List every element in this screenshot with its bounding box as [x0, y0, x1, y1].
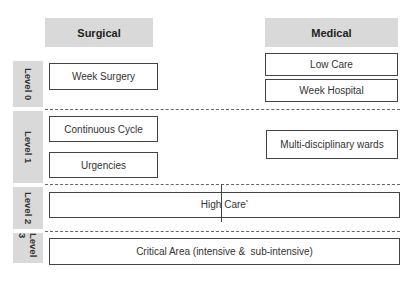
- level-0-label: Level 0: [13, 61, 43, 107]
- low-care-box: Low Care: [265, 53, 398, 76]
- level-1-label: Level 1: [13, 111, 43, 183]
- level-divider-2-3: [45, 231, 400, 232]
- continuous-cycle-box: Continuous Cycle: [49, 116, 158, 142]
- surgical-label: Surgical: [77, 27, 120, 39]
- level-3-label: Level 3: [13, 233, 43, 263]
- multidisciplinary-wards-box: Multi-disciplinary wards: [266, 130, 398, 159]
- level-2-label: Level 2: [13, 187, 43, 229]
- critical-area-box: Critical Area (intensive & sub-intensive…: [49, 238, 400, 265]
- surgical-column-header: Surgical: [45, 18, 153, 47]
- level-divider-0-1: [45, 109, 400, 110]
- urgencies-box: Urgencies: [49, 152, 158, 178]
- medical-column-header: Medical: [265, 18, 398, 47]
- level-divider-1-2: [45, 184, 400, 185]
- week-surgery-box: Week Surgery: [49, 63, 158, 90]
- high-care-box: High Care*: [49, 192, 400, 218]
- medical-label: Medical: [311, 27, 351, 39]
- week-hospital-box: Week Hospital: [265, 79, 398, 102]
- high-care-divider-line: [221, 184, 222, 222]
